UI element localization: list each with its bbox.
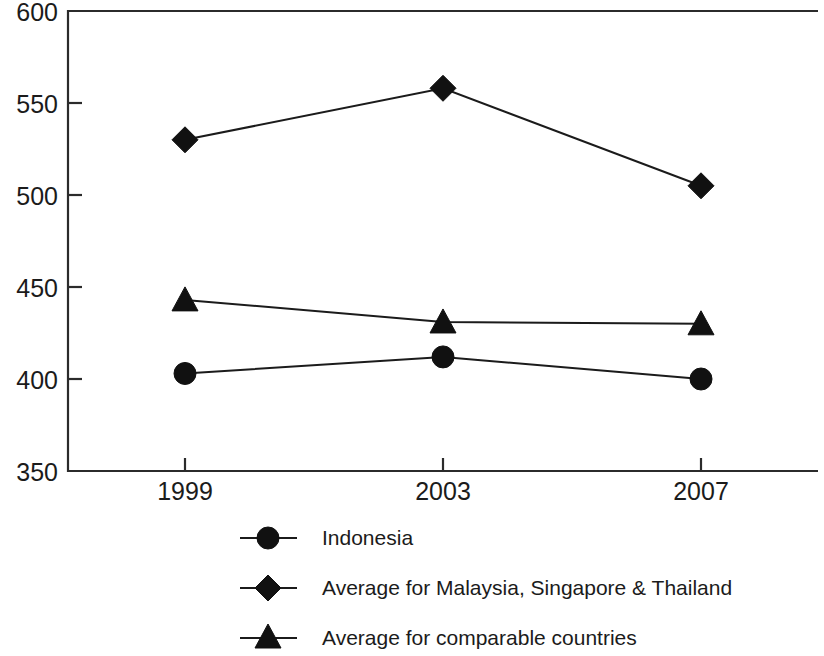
circle-marker-icon [174,362,196,384]
x-axis-label-1999: 1999 [157,477,213,505]
series-average-for-malaysia-singapore-thailand [172,75,714,199]
y-axis-label-550: 550 [16,90,58,118]
series-line [185,88,701,186]
diamond-marker-icon [688,173,714,199]
line-chart: 600 550 500 450 400 350 1999 2003 2007 I… [0,0,824,656]
triangle-marker-icon [255,624,281,648]
diamond-marker-icon [172,127,198,153]
y-axis-label-400: 400 [16,366,58,394]
y-axis-label-350: 350 [16,458,58,486]
chart-canvas: 600 550 500 450 400 350 1999 2003 2007 I… [0,0,824,656]
legend-label-comparable-countries: Average for comparable countries [322,626,637,649]
legend-item-malaysia-singapore-thailand[interactable]: Average for Malaysia, Singapore & Thaila… [240,575,732,601]
y-tick-marks [68,103,82,379]
legend-item-indonesia[interactable]: Indonesia [240,526,413,549]
circle-marker-icon [432,346,454,368]
circle-marker-icon [690,368,712,390]
chart-legend: Indonesia Average for Malaysia, Singapor… [240,526,732,649]
legend-label-malaysia-singapore-thailand: Average for Malaysia, Singapore & Thaila… [322,576,732,599]
legend-item-comparable-countries[interactable]: Average for comparable countries [240,624,637,649]
diamond-marker-icon [430,75,456,101]
diamond-marker-icon [255,575,281,601]
series-indonesia [174,346,712,390]
series-average-for-comparable-countries [172,287,714,335]
y-axis-label-500: 500 [16,182,58,210]
x-axis-label-2003: 2003 [415,477,471,505]
series-layer [172,75,714,390]
y-axis-label-450: 450 [16,274,58,302]
circle-marker-icon [257,527,279,549]
y-axis-label-600: 600 [16,0,58,26]
legend-label-indonesia: Indonesia [322,526,413,549]
x-axis-label-2007: 2007 [673,477,729,505]
triangle-marker-icon [172,287,198,311]
x-tick-marks [185,458,701,471]
